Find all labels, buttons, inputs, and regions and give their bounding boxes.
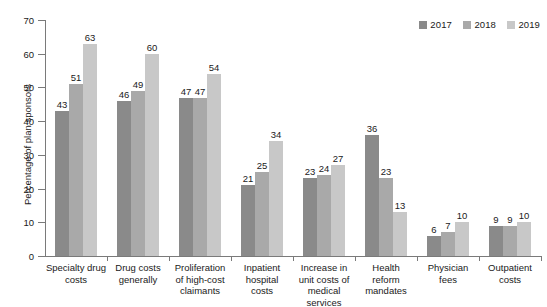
bar-group-0: 435163 (45, 20, 107, 256)
bar-2017-1[interactable]: 46 (117, 101, 131, 256)
bar-2018-6[interactable]: 7 (441, 232, 455, 256)
category-label-6: Physicianfees (413, 262, 483, 285)
bar-value-label: 10 (519, 211, 530, 221)
category-label-line: reform (351, 274, 421, 286)
category-label-line: medical services (289, 285, 359, 307)
bar-value-label: 9 (507, 215, 512, 225)
bar-value-label: 63 (85, 33, 96, 43)
bar-value-label: 10 (457, 211, 468, 221)
bar-2018-0[interactable]: 51 (69, 84, 83, 256)
bar-value-label: 27 (333, 154, 344, 164)
category-label-line: Outpatient (475, 262, 545, 274)
bar-2018-7[interactable]: 9 (503, 226, 517, 256)
y-tick-label-70: 70 (23, 15, 34, 26)
x-tick-1 (107, 256, 108, 261)
bar-2017-4[interactable]: 23 (303, 178, 317, 256)
bar-group-3: 212534 (231, 20, 293, 256)
bar-2018-1[interactable]: 49 (131, 91, 145, 256)
bar-value-label: 43 (57, 100, 68, 110)
y-tick-50: 50 (38, 87, 45, 88)
bar-2018-2[interactable]: 47 (193, 98, 207, 256)
bar-value-label: 23 (381, 167, 392, 177)
bar-2017-0[interactable]: 43 (55, 111, 69, 256)
bar-value-label: 23 (305, 167, 316, 177)
y-tick-20: 20 (38, 189, 45, 190)
y-tick-label-40: 40 (23, 116, 34, 127)
bar-2019-3[interactable]: 34 (269, 141, 283, 256)
bar-chart: 201720182019 Percentage of plan sponsors… (0, 0, 547, 307)
y-tick-label-50: 50 (23, 82, 34, 93)
x-tick-6 (417, 256, 418, 261)
bar-2018-3[interactable]: 25 (255, 172, 269, 256)
y-tick-10: 10 (38, 222, 45, 223)
bar-2019-1[interactable]: 60 (145, 54, 159, 256)
category-label-line: Physician (413, 262, 483, 274)
category-label-line: unit costs of (289, 274, 359, 286)
category-label-5: Healthreformmandates (351, 262, 421, 297)
category-label-3: Inpatienthospitalcosts (227, 262, 297, 297)
category-label-line: hospital (227, 274, 297, 286)
bar-group-6: 6710 (417, 20, 479, 256)
category-label-2: Proliferationof high-costclaimants (165, 262, 235, 297)
y-tick-40: 40 (38, 121, 45, 122)
category-label-0: Specialty drugcosts (41, 262, 111, 285)
bar-value-label: 49 (133, 80, 144, 90)
bar-2017-3[interactable]: 21 (241, 185, 255, 256)
y-tick-70: 70 (38, 20, 45, 21)
bar-2019-2[interactable]: 54 (207, 74, 221, 256)
bar-2017-5[interactable]: 36 (365, 135, 379, 256)
x-tick-4 (293, 256, 294, 261)
bar-value-label: 46 (119, 90, 130, 100)
category-label-line: Proliferation (165, 262, 235, 274)
category-label-line: claimants (165, 285, 235, 297)
bar-group-5: 362313 (355, 20, 417, 256)
category-label-line: Specialty drug (41, 262, 111, 274)
x-tick-2 (169, 256, 170, 261)
y-tick-label-0: 0 (29, 251, 34, 262)
y-tick-0: 0 (38, 256, 45, 257)
bar-2019-6[interactable]: 10 (455, 222, 469, 256)
bar-2017-2[interactable]: 47 (179, 98, 193, 256)
bar-2017-6[interactable]: 6 (427, 236, 441, 256)
bar-value-label: 54 (209, 63, 220, 73)
bar-2019-7[interactable]: 10 (517, 222, 531, 256)
bar-value-label: 9 (493, 215, 498, 225)
category-label-4: Increase inunit costs ofmedical services (289, 262, 359, 307)
x-tick-3 (231, 256, 232, 261)
x-tick-end (541, 256, 542, 261)
bar-2019-5[interactable]: 13 (393, 212, 407, 256)
y-tick-label-20: 20 (23, 183, 34, 194)
bar-group-1: 464960 (107, 20, 169, 256)
bar-value-label: 7 (445, 221, 450, 231)
bar-group-7: 9910 (479, 20, 541, 256)
bar-group-4: 232427 (293, 20, 355, 256)
category-label-line: Drug costs (103, 262, 173, 274)
category-label-line: of high-cost (165, 274, 235, 286)
category-label-line: generally (103, 274, 173, 286)
bar-2018-4[interactable]: 24 (317, 175, 331, 256)
bar-value-label: 51 (71, 73, 82, 83)
category-label-line: Inpatient (227, 262, 297, 274)
bar-value-label: 47 (181, 87, 192, 97)
bar-group-2: 474754 (169, 20, 231, 256)
y-tick-label-60: 60 (23, 48, 34, 59)
bar-value-label: 47 (195, 87, 206, 97)
x-tick-5 (355, 256, 356, 261)
bar-value-label: 24 (319, 164, 330, 174)
y-tick-label-30: 30 (23, 149, 34, 160)
bar-2019-0[interactable]: 63 (83, 44, 97, 256)
category-label-line: costs (41, 274, 111, 286)
bar-2017-7[interactable]: 9 (489, 226, 503, 256)
bar-2018-5[interactable]: 23 (379, 178, 393, 256)
category-label-line: fees (413, 274, 483, 286)
y-tick-30: 30 (38, 155, 45, 156)
category-label-1: Drug costsgenerally (103, 262, 173, 285)
bar-value-label: 21 (243, 174, 254, 184)
category-label-line: Health (351, 262, 421, 274)
category-label-7: Outpatientcosts (475, 262, 545, 285)
category-label-line: costs (227, 285, 297, 297)
bar-value-label: 34 (271, 130, 282, 140)
bar-2019-4[interactable]: 27 (331, 165, 345, 256)
category-label-line: costs (475, 274, 545, 286)
bar-value-label: 60 (147, 43, 158, 53)
